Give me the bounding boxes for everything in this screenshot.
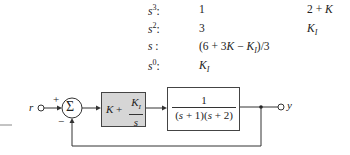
plant-transfer-function: 1 (s + 1)(s + 2) [172,94,236,121]
controller-block: K + KI s [101,92,146,127]
plant-block: 1 (s + 1)(s + 2) [167,87,240,131]
summer-sigma-icon: Σ [66,99,74,115]
summer-minus-sign: − [58,115,64,127]
output-label-y: y [287,99,292,111]
controller-fraction: KI s [129,96,143,128]
controller-label: K + [106,103,122,115]
input-label-r: r [29,101,33,113]
summer-plus-sign: + [53,93,59,105]
block-diagram-wires [0,0,350,155]
